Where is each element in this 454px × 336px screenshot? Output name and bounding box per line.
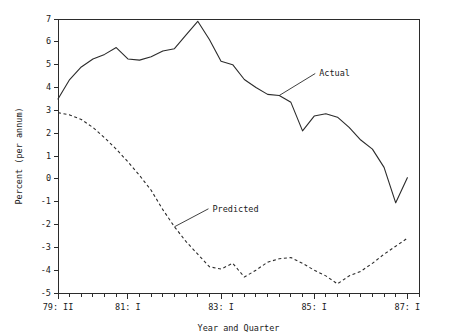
x-axis-title: Year and Quarter bbox=[198, 323, 280, 333]
y-axis-tick-label: 6 bbox=[46, 36, 51, 46]
x-axis-tick-label: 81: I bbox=[115, 302, 141, 312]
y-axis-tick-label: -2 bbox=[41, 219, 51, 229]
x-axis-tick-label: 85: I bbox=[301, 302, 327, 312]
x-axis-tick-label: 83: I bbox=[208, 302, 234, 312]
y-axis-tick-label: -1 bbox=[41, 196, 51, 206]
y-axis-tick-label: -4 bbox=[41, 265, 51, 275]
series-line-predicted bbox=[58, 113, 407, 284]
annotation-label-predicted: Predicted bbox=[212, 204, 258, 214]
chart-figure: 76543210-1-2-3-4-5 79: II81: I83: I85: I… bbox=[0, 0, 454, 336]
y-axis-title: Percent (per annum) bbox=[14, 107, 24, 204]
data-series-group bbox=[58, 21, 407, 284]
y-axis-ticks: 76543210-1-2-3-4-5 bbox=[41, 14, 58, 298]
y-axis-tick-label: -3 bbox=[41, 242, 51, 252]
line-chart-canvas: 76543210-1-2-3-4-5 79: II81: I83: I85: I… bbox=[0, 0, 454, 336]
x-axis-tick-label: 79: II bbox=[43, 302, 74, 312]
y-axis-tick-label: -5 bbox=[41, 288, 51, 298]
y-axis-tick-label: 5 bbox=[46, 59, 51, 69]
x-axis-tick-label: 87: I bbox=[395, 302, 421, 312]
y-axis-tick-label: 7 bbox=[46, 14, 51, 24]
annotation-label-actual: Actual bbox=[319, 68, 350, 78]
y-axis-tick-label: 0 bbox=[46, 173, 51, 183]
series-line-actual bbox=[58, 21, 407, 203]
y-axis-tick-label: 3 bbox=[46, 105, 51, 115]
series-annotations: ActualPredicted bbox=[174, 68, 350, 226]
y-axis-tick-label: 2 bbox=[46, 128, 51, 138]
y-axis-tick-label: 1 bbox=[46, 151, 51, 161]
y-axis-tick-label: 4 bbox=[46, 82, 51, 92]
plot-frame bbox=[58, 19, 419, 293]
x-axis-ticks: 79: II81: I83: I85: I87: I bbox=[43, 293, 421, 312]
axis-titles: Year and QuarterPercent (per annum) bbox=[14, 107, 279, 333]
